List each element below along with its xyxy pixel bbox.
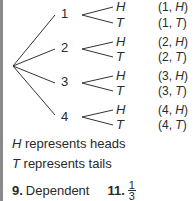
fraction-denominator: 3 (129, 191, 135, 201)
legend-heads: H represents heads (12, 136, 125, 151)
outcome-2-h: (2, H) (158, 36, 188, 49)
outcome-4-h: (4, H) (158, 104, 188, 117)
outcome-2-t: (2, T) (158, 51, 187, 64)
outcome-1-h: (1, H) (158, 1, 188, 14)
tree-leaf-2-t: T (116, 50, 124, 64)
tree-leaf-2-h: H (116, 35, 125, 49)
outcome-4-t: (4, T) (158, 119, 187, 132)
tree-leaf-1-h: H (116, 0, 125, 14)
legend-tails: T represents tails (12, 156, 112, 171)
answers-row: 9. Dependent 11. 1 3 (12, 180, 136, 201)
tree-leaf-4-t: T (116, 118, 124, 132)
fraction-numerator: 1 (129, 180, 135, 190)
answer-9-number: 9. (12, 183, 23, 198)
tree-node-1: 1 (61, 7, 68, 21)
answer-11-fraction: 1 3 (128, 180, 136, 201)
tree-leaf-1-t: T (116, 16, 124, 30)
tree-node-4: 4 (61, 110, 68, 124)
tree-leaf-3-t: T (116, 84, 124, 98)
tree-node-3: 3 (61, 75, 68, 89)
outcome-3-t: (3, T) (158, 85, 187, 98)
outcome-3-h: (3, H) (158, 70, 188, 83)
answer-11-number: 11. (107, 183, 124, 198)
outcome-1-t: (1, T) (158, 17, 187, 30)
tree-node-2: 2 (61, 41, 68, 55)
answer-9-text: Dependent (26, 183, 90, 198)
tree-leaf-4-h: H (116, 103, 125, 117)
tree-leaf-3-h: H (116, 69, 125, 83)
